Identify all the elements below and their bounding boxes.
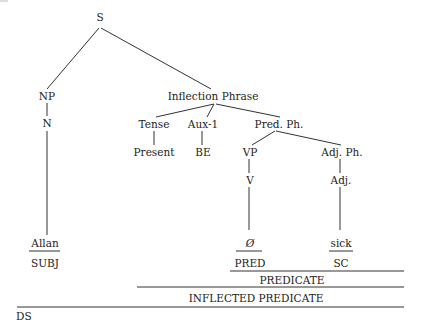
node-pred-ph: Pred. Ph. [255, 118, 304, 130]
node-present: Present [134, 146, 175, 158]
node-adj: Adj. [331, 174, 352, 186]
function-sc: SC [333, 257, 348, 269]
leaf-allan: Allan [31, 237, 58, 249]
function-subj: SUBJ [31, 257, 59, 269]
structure-label-ds: DS [16, 310, 32, 322]
node-adj-ph: Adj. Ph. [321, 146, 362, 158]
node-vp: VP [243, 146, 258, 158]
tree-lines [0, 0, 424, 322]
node-n: N [42, 117, 51, 129]
node-inflection-phrase: Inflection Phrase [168, 90, 259, 102]
node-aux1: Aux-1 [188, 118, 218, 130]
node-tense: Tense [139, 118, 170, 130]
node-np: NP [39, 90, 55, 102]
node-be: BE [195, 146, 210, 158]
leaf-null: Ø [246, 237, 255, 249]
node-v: V [246, 174, 254, 186]
function-pred: PRED [234, 257, 265, 269]
leaf-sick: sick [331, 237, 352, 249]
node-s: S [96, 11, 103, 23]
span-inflected-predicate: INFLECTED PREDICATE [189, 292, 324, 304]
span-predicate: PREDICATE [260, 274, 325, 286]
